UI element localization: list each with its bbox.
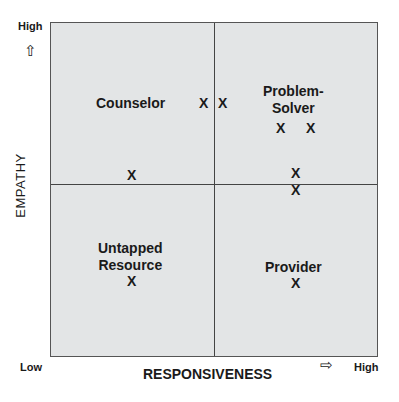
vertical-divider — [214, 23, 215, 356]
data-point-x: X — [199, 96, 208, 110]
data-point-x: X — [218, 96, 227, 110]
data-point-x: X — [291, 183, 300, 197]
data-point-x: X — [276, 121, 285, 135]
axis-low-label: Low — [20, 361, 42, 373]
untapped-line1: Untapped — [98, 240, 163, 257]
up-arrow-icon: ⇧ — [24, 42, 37, 60]
problem-solver-line1: Problem- — [263, 83, 324, 100]
data-point-x: X — [291, 276, 300, 290]
quadrant-label-untapped-resource: Untapped Resource — [98, 240, 163, 274]
y-axis-high-label: High — [18, 20, 42, 32]
right-arrow-icon: ⇨ — [320, 356, 333, 374]
horizontal-divider — [51, 184, 377, 185]
problem-solver-line2: Solver — [263, 100, 324, 117]
quadrant-label-counselor: Counselor — [96, 95, 165, 112]
untapped-line2: Resource — [98, 257, 163, 274]
y-axis-title: EMPATHY — [13, 153, 28, 217]
data-point-x: X — [127, 168, 136, 182]
quadrant-label-provider: Provider — [265, 259, 322, 276]
data-point-x: X — [127, 274, 136, 288]
x-axis-high-label: High — [354, 361, 378, 373]
data-point-x: X — [306, 121, 315, 135]
quadrant-label-problem-solver: Problem- Solver — [263, 83, 324, 117]
quadrant-plot: Counselor Problem- Solver Untapped Resou… — [50, 22, 378, 357]
data-point-x: X — [291, 166, 300, 180]
x-axis-title: RESPONSIVENESS — [143, 366, 272, 382]
